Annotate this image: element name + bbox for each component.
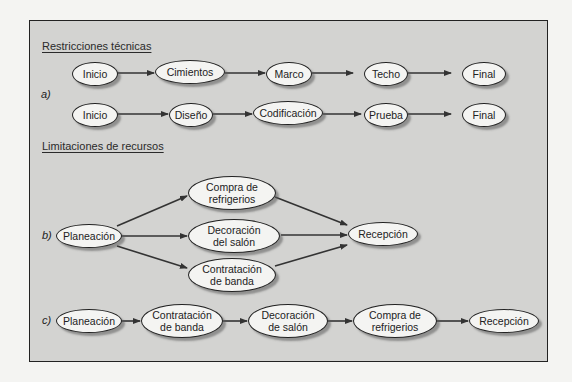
node-b-recepcion: Recepción bbox=[348, 222, 418, 246]
node-a1-cimientos: Cimientos bbox=[155, 60, 225, 84]
node-a1-marco: Marco bbox=[266, 62, 312, 86]
node-b-contratacion-banda: Contratación de banda bbox=[188, 258, 276, 292]
node-a2-final: Final bbox=[462, 103, 506, 127]
node-a1-inicio: Inicio bbox=[72, 62, 118, 86]
label-a: a) bbox=[41, 88, 51, 100]
node-b-planeacion: Planeación bbox=[56, 224, 122, 248]
label-c: c) bbox=[42, 314, 51, 326]
node-c-planeacion: Planeación bbox=[56, 309, 122, 333]
node-c-decoracion-salon: Decoración de salón bbox=[248, 304, 328, 338]
node-c-compra-refrigerios: Compra de refrigerios bbox=[353, 304, 437, 338]
heading-technical-restrictions: Restricciones técnicas bbox=[42, 40, 151, 52]
node-a1-techo: Techo bbox=[364, 62, 408, 86]
heading-resource-limitations: Limitaciones de recursos bbox=[42, 140, 164, 152]
node-a2-diseno: Diseño bbox=[169, 103, 213, 127]
node-c-recepcion: Recepción bbox=[469, 309, 539, 333]
node-b-compra-refrigerios: Compra de refrigerios bbox=[188, 176, 276, 210]
node-b-decoracion-salon: Decoración del salón bbox=[188, 219, 280, 253]
node-a2-prueba: Prueba bbox=[364, 103, 408, 127]
node-a2-inicio: Inicio bbox=[72, 103, 118, 127]
node-c-contratacion-banda: Contratación de banda bbox=[141, 304, 223, 338]
node-a2-codificacion: Codificación bbox=[253, 101, 323, 125]
node-a1-final: Final bbox=[462, 62, 506, 86]
label-b: b) bbox=[42, 229, 52, 241]
